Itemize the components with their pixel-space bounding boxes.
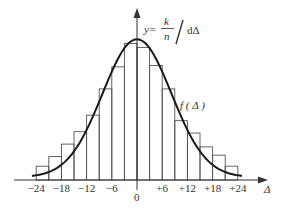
histogram-bar — [99, 89, 112, 180]
svg-text:dΔ: dΔ — [187, 24, 200, 36]
histogram-chart: −24−18−12−6+6+12+18+24 0 Δ f ( Δ ) y= k … — [0, 0, 281, 209]
x-tick-label: −24 — [28, 182, 46, 194]
y-axis-arrow-icon — [134, 8, 141, 18]
curve-label: f ( Δ ) — [180, 99, 205, 112]
histogram-bar — [162, 89, 175, 180]
svg-text:k: k — [164, 15, 170, 27]
histogram-bar — [74, 132, 87, 180]
x-tick-label: +12 — [179, 182, 196, 194]
x-tick-label: −12 — [78, 182, 95, 194]
x-tick-label: +18 — [204, 182, 222, 194]
x-tick-label: −18 — [53, 182, 71, 194]
svg-text:n: n — [164, 30, 170, 42]
x-tick-label: −6 — [106, 182, 118, 194]
x-tick-label: +6 — [156, 182, 168, 194]
svg-text:y=: y= — [143, 23, 156, 35]
origin-label: 0 — [134, 191, 140, 203]
histogram-bar — [112, 67, 125, 180]
histogram-bar — [137, 48, 150, 180]
x-axis-label: Δ — [263, 183, 270, 195]
y-formula: y= k n dΔ — [143, 15, 200, 44]
histogram-bar — [124, 43, 137, 180]
histogram-bar — [150, 65, 163, 180]
histogram-bar — [175, 121, 188, 180]
x-tick-label: +24 — [229, 182, 247, 194]
histogram-bar — [213, 155, 226, 180]
